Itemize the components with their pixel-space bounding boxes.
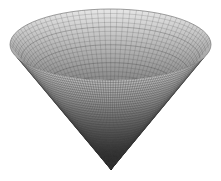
cone-surface-figure: [0, 0, 221, 181]
cone-mesh-plot: [0, 0, 221, 181]
